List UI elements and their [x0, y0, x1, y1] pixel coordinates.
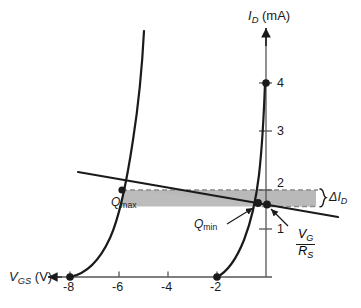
q-min-label-main: Q [194, 217, 203, 231]
figure-container: ID (mA) VGS (V) -8 -6 -4 -2 1 2 3 4 Qmax… [0, 0, 361, 308]
y-tick-label-3: 3 [277, 125, 284, 138]
x-axis-title-unit: (V) [31, 269, 52, 284]
delta-id-symbol: ΔI [329, 190, 341, 204]
delta-id-sub: D [341, 196, 348, 206]
y-axis-title-unit: (mA) [258, 8, 290, 23]
x-axis-title-main: V [9, 269, 18, 284]
transfer-characteristic-plot [0, 0, 361, 308]
vg-over-rs-fraction: VG RS [296, 228, 315, 260]
q-max-label: Qmax [111, 196, 137, 210]
y-tick-label-1: 1 [277, 223, 284, 236]
vg-numerator: VG [296, 228, 315, 243]
q-max-label-sub: max [120, 200, 136, 210]
q-max-label-main: Q [111, 195, 120, 209]
y-tick-label-2: 2 [277, 177, 284, 190]
point-idss [262, 79, 270, 87]
x-tick-label--8: -8 [63, 281, 74, 294]
x-tick-label--4: -4 [161, 281, 172, 294]
x-tick-label--2: -2 [210, 281, 221, 294]
x-axis-title: VGS (V) [9, 270, 52, 286]
rs-denominator: RS [296, 245, 315, 260]
delta-id-brace [320, 189, 326, 207]
point-q-min [254, 199, 262, 207]
delta-id-label: ΔID [329, 191, 347, 206]
q-min-label-sub: min [203, 222, 217, 232]
y-axis-title: ID (mA) [248, 9, 290, 25]
transfer-curve-max [70, 31, 144, 277]
point-vg-rs [263, 201, 271, 209]
y-tick-label-4: 4 [277, 77, 284, 90]
x-axis-title-sub: GS [18, 276, 32, 286]
q-min-label: Qmin [194, 218, 217, 232]
x-tick-label--6: -6 [112, 281, 123, 294]
point-q-max [118, 186, 125, 193]
transfer-curve-min [217, 83, 265, 277]
